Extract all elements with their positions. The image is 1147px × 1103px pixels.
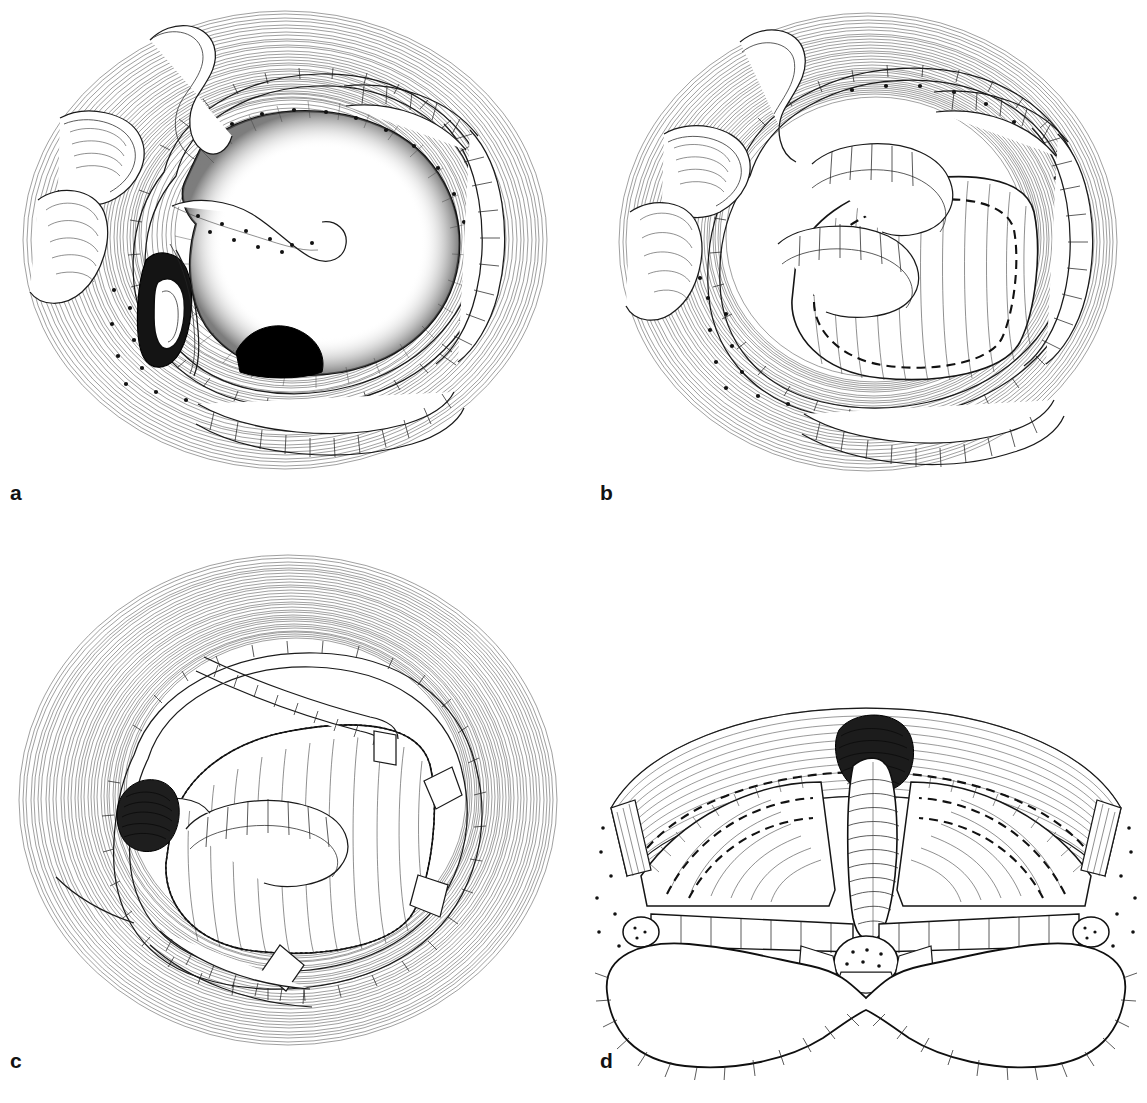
panel-label-c: c bbox=[10, 1050, 22, 1071]
panel-c bbox=[0, 545, 580, 1065]
lower-banded-arc bbox=[802, 400, 1064, 467]
panel-label-d: d bbox=[600, 1050, 613, 1071]
panel-a bbox=[0, 0, 580, 480]
illustration-plate: a bbox=[0, 0, 1147, 1103]
panel-b bbox=[600, 0, 1147, 480]
dark-mass bbox=[117, 780, 179, 852]
panel-label-b: b bbox=[600, 482, 613, 503]
midline-banded-structure bbox=[847, 758, 899, 940]
panel-d bbox=[585, 700, 1147, 1080]
panel-label-a: a bbox=[10, 482, 22, 503]
